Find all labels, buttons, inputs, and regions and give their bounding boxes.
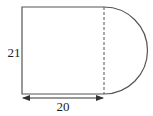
semicircle-arc [104,7,147,94]
rectangle-outline [22,7,104,94]
width-label: 20 [57,99,70,114]
composite-shape-diagram: 21 20 [0,0,153,116]
height-label: 21 [8,45,21,60]
